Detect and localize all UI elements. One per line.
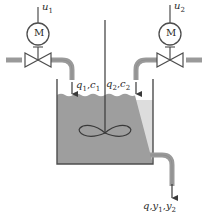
label-c2-subscript: 2 xyxy=(126,84,130,92)
label-outlet-y2-subscript: 2 xyxy=(172,206,176,214)
inlet-pipe-left xyxy=(6,60,72,80)
valve-body-left-mirror[interactable] xyxy=(38,53,51,67)
valve-body-right[interactable] xyxy=(157,53,170,67)
valve-body-right-mirror[interactable] xyxy=(170,53,183,67)
valve-body-left[interactable] xyxy=(25,53,38,67)
diagram-canvas: u1 u2 M M q1,c1 q2,c2 q,y1,y2 xyxy=(0,0,208,218)
label-inlet-left: q1,c1 xyxy=(76,79,100,93)
label-outlet: q,y1,y2 xyxy=(143,200,176,214)
label-u1: u1 xyxy=(42,1,53,15)
label-motor-right: M xyxy=(165,27,177,38)
inlet-pipe-right xyxy=(136,60,202,80)
label-u1-subscript: 1 xyxy=(48,7,52,15)
label-u2: u2 xyxy=(174,0,185,14)
control-valve-left[interactable] xyxy=(25,47,51,67)
control-valve-right[interactable] xyxy=(157,47,183,67)
label-inlet-right: q2,c2 xyxy=(106,78,130,92)
label-c1-subscript: 1 xyxy=(96,85,100,93)
label-u2-subscript: 2 xyxy=(180,6,184,14)
label-motor-left: M xyxy=(33,27,45,38)
